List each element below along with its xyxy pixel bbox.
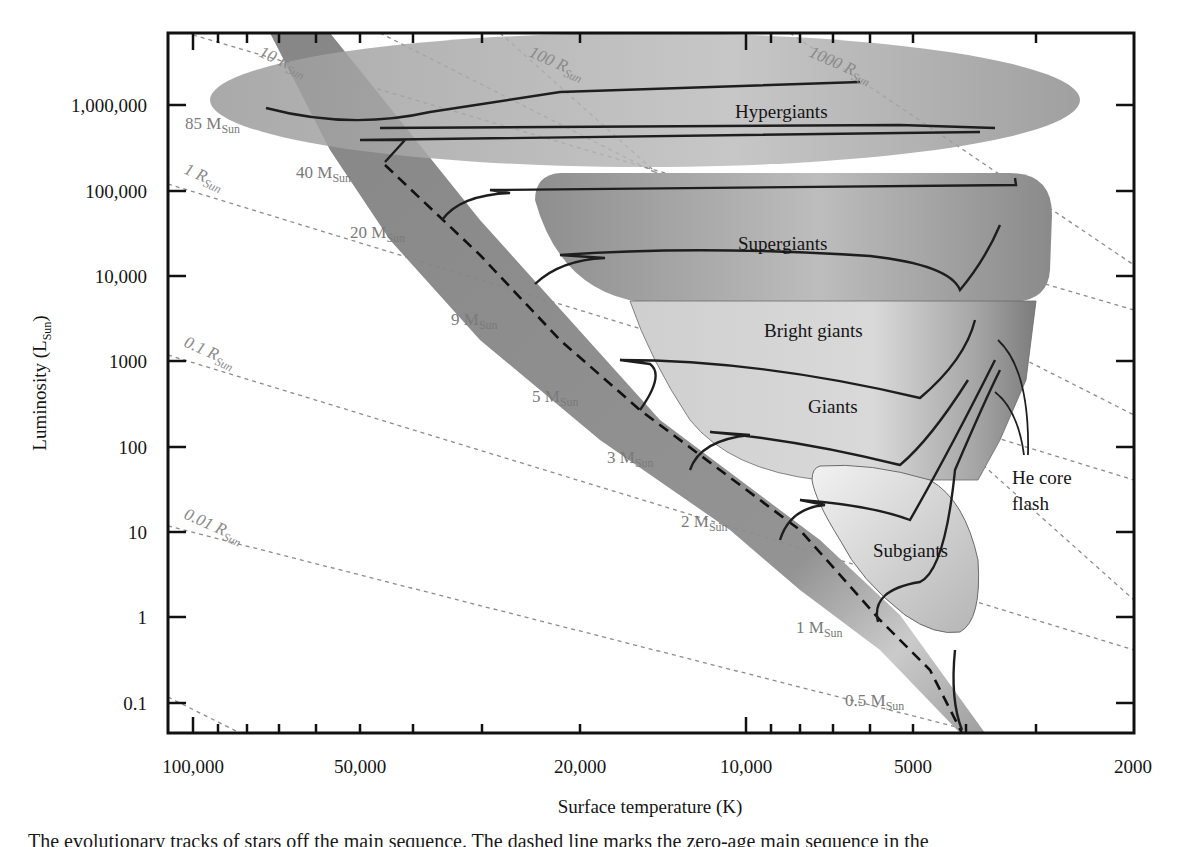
y-tick-label: 100 [119, 437, 148, 458]
y-tick-label: 1000 [109, 351, 147, 372]
annotation-he-core-flash-2: flash [1012, 493, 1049, 514]
hr-diagram: 1,000,000 100,000 10,000 1000 100 10 1 0… [0, 0, 1181, 847]
label-supergiants: Supergiants [738, 233, 827, 254]
radius-label-0-01: 0.01 RSun [180, 504, 246, 549]
annotation-he-core-flash-1: He core [1012, 467, 1072, 488]
y-axis-title: Luminosity (LSun) [29, 315, 54, 450]
y-tick-label: 10,000 [95, 266, 147, 287]
mass-label-1: 1 MSun [796, 618, 843, 640]
x-tick-label: 20,000 [554, 756, 606, 777]
y-tick-label: 100,000 [85, 181, 147, 202]
x-tick-label: 5000 [894, 756, 932, 777]
figure-caption: The evolutionary tracks of stars off the… [28, 829, 1181, 847]
x-tick-label: 100,000 [162, 756, 224, 777]
label-hypergiants: Hypergiants [735, 101, 828, 122]
x-tick-label: 50,000 [334, 756, 386, 777]
x-tick-label: 2000 [1114, 756, 1152, 777]
x-tick-labels: 100,000 50,000 20,000 10,000 5000 2000 [162, 756, 1152, 777]
x-axis-title: Surface temperature (K) [558, 796, 743, 818]
region-hypergiants [210, 33, 1080, 167]
radius-label-1: 1 RSun [180, 159, 227, 196]
x-tick-label: 10,000 [720, 756, 772, 777]
label-bright-giants: Bright giants [764, 320, 863, 341]
y-tick-labels: 1,000,000 100,000 10,000 1000 100 10 1 0… [71, 95, 147, 714]
y-tick-label: 0.1 [123, 693, 147, 714]
label-subgiants: Subgiants [873, 540, 948, 561]
label-giants: Giants [808, 396, 858, 417]
y-tick-label: 1,000,000 [71, 95, 147, 116]
y-tick-label: 10 [128, 522, 147, 543]
mass-label-0-5: 0.5 MSun [845, 691, 904, 713]
y-tick-label: 1 [138, 607, 148, 628]
